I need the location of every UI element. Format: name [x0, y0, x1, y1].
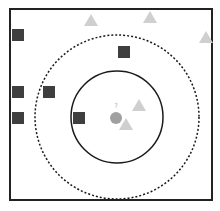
- square-point: [12, 29, 24, 41]
- query-point: [110, 112, 122, 124]
- diagram-frame: [10, 9, 212, 200]
- knn-diagram: ?: [0, 0, 220, 211]
- square-point: [12, 112, 24, 124]
- square-point: [118, 46, 130, 58]
- square-point: [73, 112, 85, 124]
- query-label: ?: [114, 102, 118, 110]
- square-point: [43, 86, 55, 98]
- square-point: [12, 86, 24, 98]
